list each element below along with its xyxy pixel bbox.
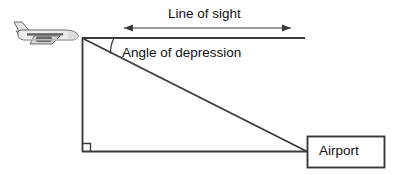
line-of-sight-label: Line of sight: [168, 7, 241, 21]
diagram-canvas: Line of sight Angle of depression Airpor…: [0, 0, 400, 175]
line-of-sight-measure-arrow: [124, 25, 291, 32]
angle-of-depression-label: Angle of depression: [122, 46, 241, 60]
arrow-left-icon: [124, 25, 133, 32]
arrow-right-icon: [282, 25, 291, 32]
airport-label: Airport: [319, 144, 359, 158]
airplane-icon: [14, 22, 78, 44]
angle-arc: [110, 38, 114, 54]
